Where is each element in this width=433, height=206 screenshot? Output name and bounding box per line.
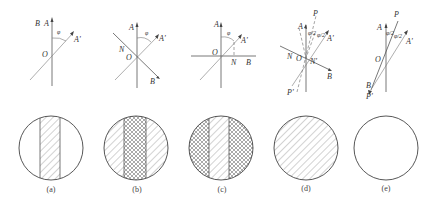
label-half-phi-2: φ/2 xyxy=(317,32,325,38)
axis-b-prime xyxy=(115,36,158,80)
label-B: B xyxy=(366,81,371,90)
arrow-icon xyxy=(304,24,307,29)
panel-e-axes: P A φ/2 φ/2 A' O B P' xyxy=(365,10,413,101)
arrow-icon xyxy=(51,17,54,22)
arrow-icon xyxy=(156,76,160,79)
label-N-prime: N' xyxy=(309,57,317,66)
panel-a-axes: B A φ A' O xyxy=(30,17,81,86)
axis-a-prime xyxy=(30,33,73,80)
label-O: O xyxy=(296,54,302,63)
axis-b-diagonal xyxy=(113,33,159,78)
label-B: B xyxy=(35,19,40,28)
label-P: P xyxy=(393,10,399,19)
label-A: A xyxy=(376,23,382,32)
caption-c: (c) xyxy=(218,185,227,194)
label-phi: φ xyxy=(227,30,231,36)
label-P-prime: P' xyxy=(365,92,373,101)
arrow-icon xyxy=(385,23,388,28)
label-A-prime: A' xyxy=(326,34,334,43)
field-a xyxy=(19,110,83,190)
angle-arc xyxy=(52,38,66,41)
field-b xyxy=(100,110,180,190)
field-e xyxy=(354,116,418,180)
angle-arc xyxy=(137,38,151,43)
label-A-prime: A' xyxy=(158,34,166,43)
label-P-prime: P' xyxy=(286,88,294,97)
label-O: O xyxy=(212,48,218,57)
panel-d-axes: P A φ/2 φ/2 A' N O N' B P' xyxy=(280,9,334,97)
label-O: O xyxy=(126,53,132,62)
label-half-phi-1: φ/2 xyxy=(308,30,316,36)
aux-dash-2 xyxy=(306,33,315,58)
arrow-icon xyxy=(136,22,139,27)
label-B: B xyxy=(246,58,251,67)
field-d xyxy=(270,110,350,190)
label-phi: φ xyxy=(145,30,149,36)
field-c xyxy=(185,110,265,190)
label-N: N xyxy=(286,52,293,61)
arrow-icon xyxy=(328,68,332,71)
label-half-phi-1: φ/2 xyxy=(386,30,394,36)
label-half-phi-2: φ/2 xyxy=(394,33,402,39)
label-B: B xyxy=(150,77,155,86)
label-A-prime: A' xyxy=(73,35,81,44)
label-phi: φ xyxy=(57,29,61,35)
polarization-diagram: B A φ A' O A φ A' N O B A φ A' O N B xyxy=(0,0,433,206)
label-O: O xyxy=(375,55,381,64)
label-A-prime: A' xyxy=(240,36,248,45)
label-A: A xyxy=(297,22,303,31)
caption-a: (a) xyxy=(47,185,56,194)
label-O: O xyxy=(42,50,48,59)
panel-b-axes: A φ A' N O B xyxy=(113,22,166,88)
arrow-icon xyxy=(220,22,223,27)
label-N: N xyxy=(230,58,237,67)
label-A: A xyxy=(43,19,49,28)
caption-e: (e) xyxy=(382,184,391,193)
arrow-icon xyxy=(404,30,408,35)
label-P: P xyxy=(312,9,318,18)
label-A: A xyxy=(213,20,219,29)
angle-arc xyxy=(221,37,234,41)
label-B: B xyxy=(327,72,332,81)
caption-d: (d) xyxy=(301,184,311,193)
label-A: A xyxy=(128,23,134,32)
caption-b: (b) xyxy=(132,185,142,194)
label-A-prime: A' xyxy=(405,37,413,46)
label-N: N xyxy=(118,45,125,54)
panel-c-axes: A φ A' O N B xyxy=(191,20,256,88)
